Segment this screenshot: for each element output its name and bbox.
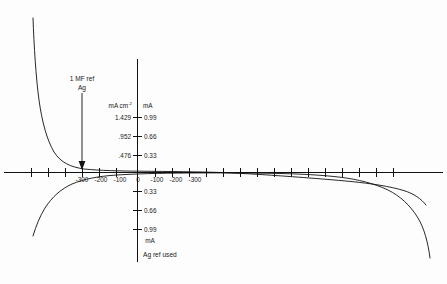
y-right-tick-neg-2: 0.66 (144, 207, 157, 214)
axes-group (4, 59, 443, 262)
x-tick-left-3: -100 (114, 176, 127, 183)
y-left-tick-3: .476 (119, 152, 132, 159)
x-tick-origin: 0 (136, 176, 140, 183)
x-tick-left-2: -200 (95, 176, 108, 183)
y-right-tick-neg-1: 0.33 (144, 188, 157, 195)
y-right-tick-pos-1: 0.99 (144, 114, 157, 121)
ref-electrode-arrow (79, 93, 86, 170)
y-left-tick-2: .952 (119, 133, 132, 140)
x-tick-right-1: -100 (151, 176, 164, 183)
y-right-tick-neg-3: 0.99 (144, 226, 157, 233)
y-axis-right-unit-label: mA (143, 102, 153, 109)
y-right-tick-pos-2: 0.66 (144, 133, 157, 140)
y-axis-left-unit-superscript: -2 (128, 101, 132, 106)
curve-cathodic-branch (33, 173, 430, 258)
y-axis-left-unit-text: mA cm (109, 102, 129, 109)
chart-canvas: 1 MF ref Ag mA cm-2 mA 1.429 .952 .476 0… (0, 0, 447, 284)
polarization-curve-figure: 1 MF ref Ag mA cm-2 mA 1.429 .952 .476 0… (0, 0, 447, 284)
x-tick-right-3: -300 (189, 176, 202, 183)
y-right-tick-pos-3: 0.33 (144, 152, 157, 159)
y-axis-left-unit-label: mA cm-2 (109, 101, 133, 109)
x-tick-right-2: -200 (170, 176, 183, 183)
ref-electrode-note-line2: Ag (78, 84, 86, 92)
x-tick-left-1: -300 (76, 176, 89, 183)
bottom-caption: Ag ref used (143, 251, 177, 259)
y-left-tick-1: 1.429 (115, 114, 131, 121)
ref-electrode-note-line1: 1 MF ref (70, 75, 95, 82)
y-axis-bottom-unit-label: mA (145, 237, 155, 244)
data-curves (33, 18, 430, 258)
curve-anodic-branch (33, 18, 426, 205)
